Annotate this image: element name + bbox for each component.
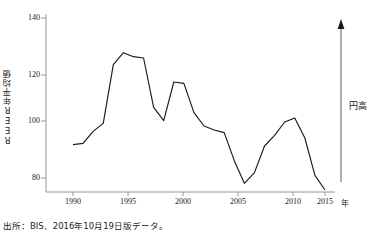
- x-tick-marks: [73, 192, 325, 196]
- reer-data-line: [73, 53, 325, 190]
- chart-figure: REER年平均値 140 120 100 80 1990 1995 2000 2…: [0, 0, 379, 239]
- y-tick-marks: [41, 18, 46, 178]
- yen-appreciation-arrow: [338, 19, 345, 182]
- plot-canvas: [0, 0, 379, 239]
